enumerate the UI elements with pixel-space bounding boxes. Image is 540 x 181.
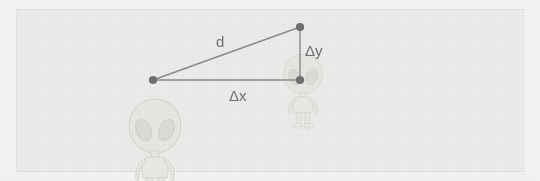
vertical-leg-label: Δy: [305, 43, 323, 58]
diagram-canvas: d Δx Δy: [0, 0, 540, 181]
triangle-layer: [0, 0, 540, 181]
vertex-point-b: [296, 23, 304, 31]
horizontal-leg-label: Δx: [229, 88, 247, 103]
vertex-corner: [296, 76, 304, 84]
hypotenuse-label: d: [216, 34, 224, 49]
hypotenuse-line: [153, 27, 300, 80]
vertex-point-a: [149, 76, 157, 84]
geometry-figure: d Δx Δy: [0, 0, 540, 181]
